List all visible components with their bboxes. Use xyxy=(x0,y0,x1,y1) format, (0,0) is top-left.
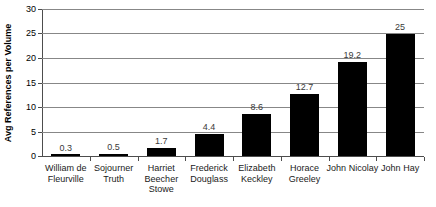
y-axis-tick xyxy=(38,156,42,157)
y-axis-tick-label: 30 xyxy=(14,4,36,14)
x-axis-category-label: William de Fleurville xyxy=(40,163,92,184)
y-axis-tick xyxy=(38,83,42,84)
bar-value-label: 4.4 xyxy=(185,122,233,132)
x-axis-tick xyxy=(138,157,139,161)
x-axis-category-label: Sojourner Truth xyxy=(88,163,140,184)
bar-value-label: 0.5 xyxy=(90,142,138,152)
plot-area xyxy=(42,9,424,156)
x-axis-tick xyxy=(185,157,186,161)
bar xyxy=(290,94,319,156)
bar xyxy=(338,62,367,156)
gridline xyxy=(42,9,424,10)
x-axis-category-label: Frederick Douglass xyxy=(183,163,235,184)
x-axis-tick xyxy=(376,157,377,161)
y-axis-tick-label: 5 xyxy=(14,127,36,137)
bar xyxy=(147,148,176,156)
bar xyxy=(386,34,415,157)
bar xyxy=(195,134,224,156)
bar-value-label: 19.2 xyxy=(329,50,377,60)
y-axis-tick-labels: 051015202530 xyxy=(12,0,36,207)
y-axis-tick xyxy=(38,107,42,108)
y-axis-tick-label: 15 xyxy=(14,78,36,88)
x-axis-category-label: John Hay xyxy=(374,163,426,174)
bar-chart: Avg References per Volume 051015202530 0… xyxy=(0,0,436,207)
x-axis-category-label: Harriet Beecher Stowe xyxy=(136,163,188,195)
x-axis-tick xyxy=(90,157,91,161)
bar-value-label: 12.7 xyxy=(281,82,329,92)
y-axis-tick-label: 0 xyxy=(14,151,36,161)
x-axis-tick xyxy=(281,157,282,161)
bar xyxy=(51,154,80,156)
y-axis-tick-label: 20 xyxy=(14,53,36,63)
y-axis-tick xyxy=(38,58,42,59)
y-axis-tick xyxy=(38,33,42,34)
y-axis-tick-label: 25 xyxy=(14,28,36,38)
x-axis-tick xyxy=(329,157,330,161)
bar-value-label: 0.3 xyxy=(42,143,90,153)
bar xyxy=(242,114,271,156)
x-axis-category-label: John Nicolay xyxy=(327,163,379,174)
y-axis-tick xyxy=(38,9,42,10)
x-axis-tick xyxy=(233,157,234,161)
bar-value-label: 8.6 xyxy=(233,102,281,112)
gridline xyxy=(42,33,424,34)
bar-value-label: 25 xyxy=(376,22,424,32)
y-axis-tick xyxy=(38,132,42,133)
x-axis-category-label: Horace Greeley xyxy=(279,163,331,184)
bar-value-label: 1.7 xyxy=(138,136,186,146)
x-axis-category-label: Elizabeth Keckley xyxy=(231,163,283,184)
bar xyxy=(99,154,128,156)
x-axis-tick xyxy=(424,157,425,161)
y-axis-tick-label: 10 xyxy=(14,102,36,112)
